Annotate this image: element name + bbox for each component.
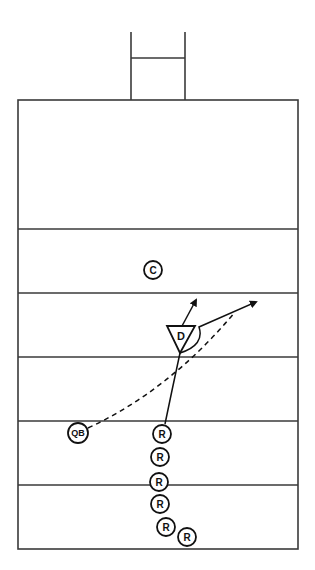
player-label: R — [155, 477, 163, 488]
play-diagram: D C QB R R R R R R — [0, 0, 315, 570]
receiver-route — [165, 353, 180, 424]
player-label: R — [156, 499, 164, 510]
defender-drop-arrow — [182, 300, 196, 326]
player-center: C — [144, 261, 162, 279]
player-label: R — [183, 532, 191, 543]
player-label: QB — [71, 428, 85, 438]
player-label: R — [158, 429, 166, 440]
player-receiver-1: R — [153, 425, 171, 443]
defender-label: D — [177, 330, 185, 342]
goal-post — [131, 32, 185, 100]
player-quarterback: QB — [68, 423, 88, 443]
player-receiver-6: R — [178, 528, 196, 546]
player-label: C — [149, 265, 156, 276]
player-label: R — [156, 452, 164, 463]
player-receiver-5: R — [157, 518, 175, 536]
player-receiver-4: R — [151, 495, 169, 513]
player-label: R — [162, 522, 170, 533]
pass-path — [88, 312, 235, 428]
player-receiver-2: R — [151, 448, 169, 466]
player-receiver-3: R — [150, 473, 168, 491]
